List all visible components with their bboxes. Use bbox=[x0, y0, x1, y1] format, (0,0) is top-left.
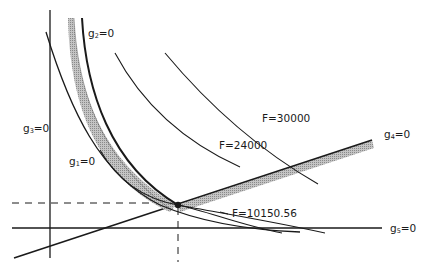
g3-label: g3=0 bbox=[23, 123, 49, 135]
g1-label: g1=0 bbox=[69, 156, 95, 168]
contour-label-f-30000: F=30000 bbox=[262, 113, 310, 124]
design-space-diagram bbox=[0, 0, 422, 270]
g2-label: g2=0 bbox=[88, 28, 114, 40]
contour-label-f-10150: F=10150.56 bbox=[232, 208, 297, 219]
g5-label: g5=0 bbox=[390, 223, 416, 235]
g4-label: g4=0 bbox=[384, 129, 410, 141]
g4-constraint-line bbox=[14, 140, 372, 258]
optimum-point bbox=[175, 202, 181, 208]
g4-infeasible-band bbox=[178, 140, 374, 212]
contour-label-f-24000: F=24000 bbox=[219, 140, 267, 151]
